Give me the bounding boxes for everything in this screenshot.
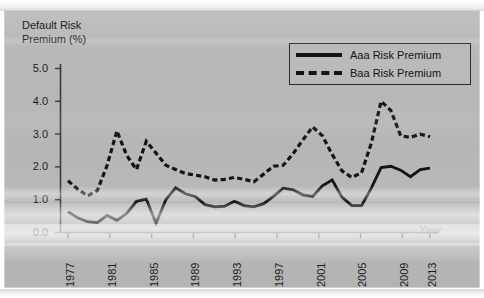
- x-tick-label-1985: 1985: [148, 263, 160, 287]
- scan-bottom-margin: [0, 289, 484, 298]
- x-tick-label-2009: 2009: [398, 263, 410, 287]
- x-tick-label-2013: 2013: [426, 263, 438, 287]
- x-tick-label-1993: 1993: [231, 263, 243, 287]
- x-tick-label-1977: 1977: [64, 263, 76, 287]
- series-line-aaa-risk-premium: [68, 166, 430, 223]
- legend: Aaa Risk Premium Baa Risk Premium: [289, 43, 471, 85]
- legend-item-aaa: Aaa Risk Premium: [296, 47, 441, 63]
- scanned-page: Default Risk Premium (%): [0, 0, 484, 298]
- legend-label-baa: Baa Risk Premium: [350, 67, 441, 79]
- dashed-line-icon: [296, 71, 342, 75]
- legend-item-baa: Baa Risk Premium: [296, 65, 441, 81]
- y-tick-label-2: 2.0: [14, 160, 48, 172]
- x-tick-label-1981: 1981: [106, 263, 118, 287]
- x-tick-label-2005: 2005: [356, 263, 368, 287]
- legend-label-aaa: Aaa Risk Premium: [350, 49, 441, 61]
- y-tick-label-1: 1.0: [14, 193, 48, 205]
- x-tick-label-1997: 1997: [273, 263, 285, 287]
- y-tick-label-3: 3.0: [14, 128, 48, 140]
- y-tick-label-0: 0.0: [14, 226, 48, 238]
- y-tick-label-4: 4.0: [14, 95, 48, 107]
- y-tick-label-5: 5.0: [14, 62, 48, 74]
- x-axis-title: Year: [419, 224, 442, 236]
- y-tick-marks: [55, 69, 61, 233]
- data-series-layer: [68, 101, 430, 223]
- x-tick-label-2001: 2001: [315, 263, 327, 287]
- solid-line-icon: [296, 53, 342, 57]
- x-tick-label-1989: 1989: [189, 263, 201, 287]
- x-tick-marks: [68, 233, 430, 239]
